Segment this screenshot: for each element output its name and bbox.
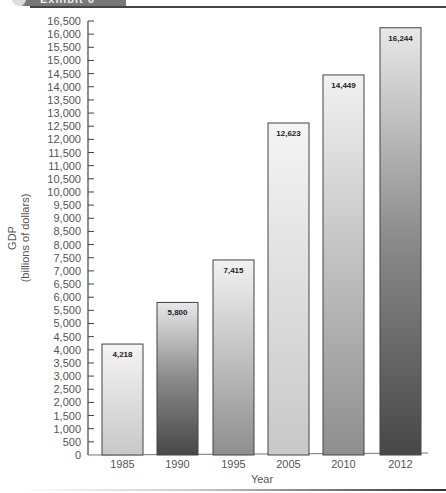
y-tick-label: 13,000 [47, 107, 81, 119]
y-tick-label: 3,500 [53, 357, 81, 369]
bar-1985 [102, 344, 143, 455]
y-tick-label: 7,500 [53, 252, 81, 264]
bar-value-label: 14,449 [331, 81, 356, 90]
y-tick-label: 5,000 [53, 317, 81, 329]
y-tick-label: 2,000 [53, 396, 81, 408]
y-tick-label: 500 [63, 436, 81, 448]
x-axis-title: Year [251, 473, 274, 485]
x-tick-label: 2010 [331, 458, 355, 470]
y-tick-label: 15,000 [47, 54, 81, 66]
y-tick-label: 14,500 [47, 68, 81, 80]
y-tick-label: 6,500 [53, 278, 81, 290]
bar-2012 [380, 28, 421, 455]
y-tick-label: 12,000 [47, 133, 81, 145]
bar-2005 [268, 123, 309, 455]
y-tick-label: 5,500 [53, 304, 81, 316]
bar-1995 [213, 260, 254, 455]
y-tick-label: 8,000 [53, 239, 81, 251]
y-axis-title-line2: (billions of dollars) [19, 194, 31, 283]
y-tick-label: 2,500 [53, 383, 81, 395]
y-tick-label: 11,500 [48, 147, 81, 159]
bar-value-label: 5,800 [167, 308, 188, 317]
y-tick-label: 8,500 [53, 225, 81, 237]
y-tick-label: 9,500 [53, 199, 81, 211]
bar-1990 [157, 302, 198, 455]
y-tick-label: 6,000 [53, 291, 81, 303]
y-tick-label: 1,000 [53, 423, 81, 435]
y-tick-label: 14,000 [47, 81, 81, 93]
y-tick-label: 4,000 [53, 344, 81, 356]
x-tick-label: 1985 [110, 458, 134, 470]
y-tick-label: 7,000 [53, 265, 81, 277]
y-tick-label: 12,500 [47, 120, 81, 132]
y-tick-label: 15,500 [47, 41, 81, 53]
bar-2010 [323, 75, 364, 455]
bars: 4,2185,8007,41512,62314,44916,244 [102, 28, 421, 455]
bar-value-label: 4,218 [112, 350, 133, 359]
x-tick-label: 2005 [276, 458, 300, 470]
y-tick-label: 3,000 [53, 370, 81, 382]
y-tick-label: 0 [75, 449, 81, 461]
footer-rule [20, 489, 446, 491]
gdp-bar-chart: 05001,0001,5002,0002,5003,0003,5004,0004… [0, 0, 446, 493]
y-tick-label: 10,000 [47, 186, 81, 198]
x-tick-label: 1990 [165, 458, 189, 470]
y-tick-label: 13,500 [47, 94, 81, 106]
y-tick-label: 11,000 [48, 160, 81, 172]
y-tick-label: 16,000 [47, 28, 81, 40]
y-axis-title-line1: GDP [6, 226, 18, 250]
y-tick-label: 9,000 [53, 212, 81, 224]
x-axis: 198519901995200520102012 [110, 458, 412, 470]
y-tick-label: 4,500 [53, 331, 81, 343]
y-tick-label: 1,500 [53, 410, 81, 422]
y-tick-label: 16,500 [47, 15, 81, 27]
x-tick-label: 2012 [388, 458, 412, 470]
y-tick-label: 10,500 [47, 173, 81, 185]
x-tick-label: 1995 [221, 458, 245, 470]
bar-value-label: 12,623 [276, 129, 301, 138]
bar-value-label: 16,244 [388, 34, 413, 43]
bar-value-label: 7,415 [223, 266, 244, 275]
